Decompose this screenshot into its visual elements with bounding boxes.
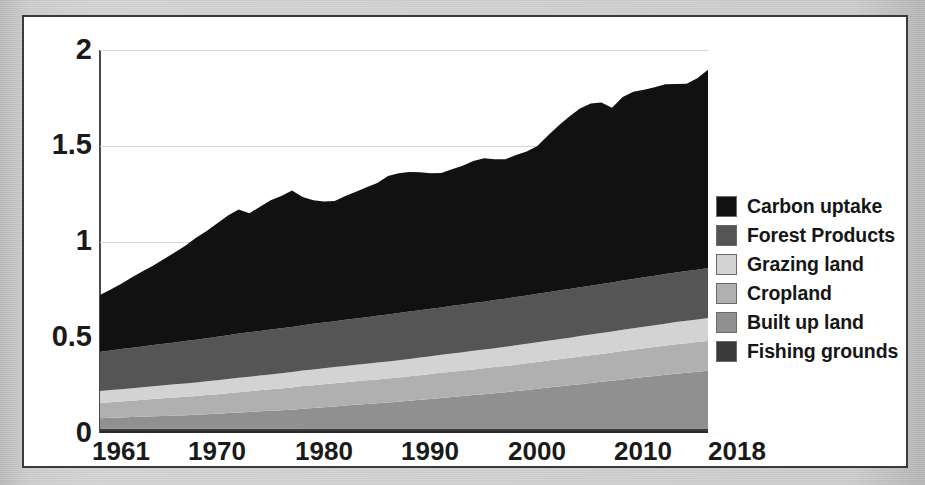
chart-legend: Carbon uptakeForest ProductsGrazing land… — [716, 192, 906, 366]
x-tick-2018: 2018 — [708, 438, 766, 464]
legend-swatch-cropland — [716, 283, 737, 304]
y-tick-1.5: 1.5 — [52, 130, 92, 159]
stacked-area-chart: 2 1.5 1 0.5 0 1961 1970 1980 1990 2000 2… — [24, 17, 906, 466]
y-tick-0.5: 0.5 — [52, 322, 92, 351]
y-tick-0: 0 — [76, 418, 92, 447]
legend-item-carbon-uptake[interactable]: Carbon uptake — [716, 192, 906, 221]
legend-item-cropland[interactable]: Cropland — [716, 279, 906, 308]
x-tick-1970: 1970 — [188, 438, 246, 464]
x-tick-2000: 2000 — [508, 438, 566, 464]
x-tick-1990: 1990 — [401, 438, 459, 464]
plot-area — [100, 50, 708, 433]
x-tick-1961: 1961 — [92, 438, 150, 464]
legend-label: Grazing land — [747, 253, 864, 276]
legend-swatch-fishing-grounds — [716, 341, 737, 362]
legend-label: Fishing grounds — [747, 340, 898, 363]
y-tick-2: 2 — [76, 35, 92, 64]
legend-label: Forest Products — [747, 224, 895, 247]
legend-label: Cropland — [747, 282, 832, 305]
x-axis-line — [100, 431, 708, 433]
chart-figure-frame: 2 1.5 1 0.5 0 1961 1970 1980 1990 2000 2… — [22, 15, 908, 468]
y-tick-1: 1 — [76, 226, 92, 255]
y-axis-tick-labels: 2 1.5 1 0.5 0 — [32, 50, 92, 433]
legend-label: Built up land — [747, 311, 864, 334]
legend-item-grazing-land[interactable]: Grazing land — [716, 250, 906, 279]
legend-item-fishing-grounds[interactable]: Fishing grounds — [716, 337, 906, 366]
legend-swatch-forest-products — [716, 225, 737, 246]
legend-item-forest-products[interactable]: Forest Products — [716, 221, 906, 250]
x-tick-1980: 1980 — [295, 438, 353, 464]
legend-swatch-carbon-uptake — [716, 196, 737, 217]
legend-swatch-built-up-land — [716, 312, 737, 333]
area-series-layers — [100, 50, 708, 433]
x-axis-tick-labels: 1961 1970 1980 1990 2000 2010 2018 — [100, 438, 720, 478]
legend-swatch-grazing-land — [716, 254, 737, 275]
x-tick-2010: 2010 — [614, 438, 672, 464]
legend-item-built-up-land[interactable]: Built up land — [716, 308, 906, 337]
legend-label: Carbon uptake — [747, 195, 882, 218]
